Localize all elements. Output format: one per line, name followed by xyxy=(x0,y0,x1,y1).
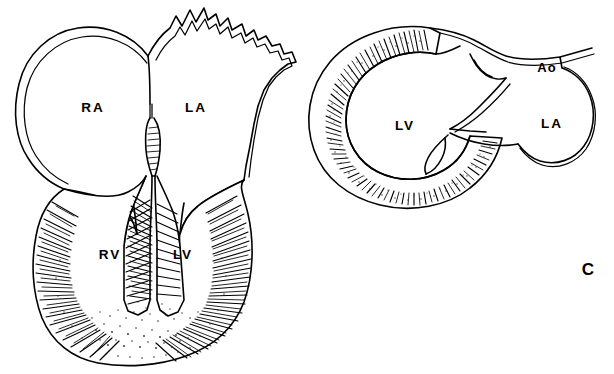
panel-label-c: C xyxy=(582,260,594,279)
four-chamber-view: RA LA RV LV xyxy=(16,8,296,366)
label-lv-long-axis: LV xyxy=(395,118,415,133)
label-ra: RA xyxy=(81,100,105,115)
label-ao: Ao xyxy=(537,60,557,75)
anterior-mitral-leaflet xyxy=(450,78,510,132)
label-la-long-axis: LA xyxy=(541,116,563,131)
label-rv: RV xyxy=(99,247,122,262)
interatrial-septum xyxy=(148,56,152,118)
label-la: LA xyxy=(185,100,207,115)
label-lv: LV xyxy=(173,247,193,262)
long-axis-view: LV Ao LA xyxy=(309,27,596,209)
left-atrium xyxy=(148,8,296,180)
heart-illustration-svg: RA LA RV LV xyxy=(0,0,614,374)
heart-diagram-figure: RA LA RV LV xyxy=(0,0,614,374)
av-valve-septum xyxy=(146,118,161,176)
